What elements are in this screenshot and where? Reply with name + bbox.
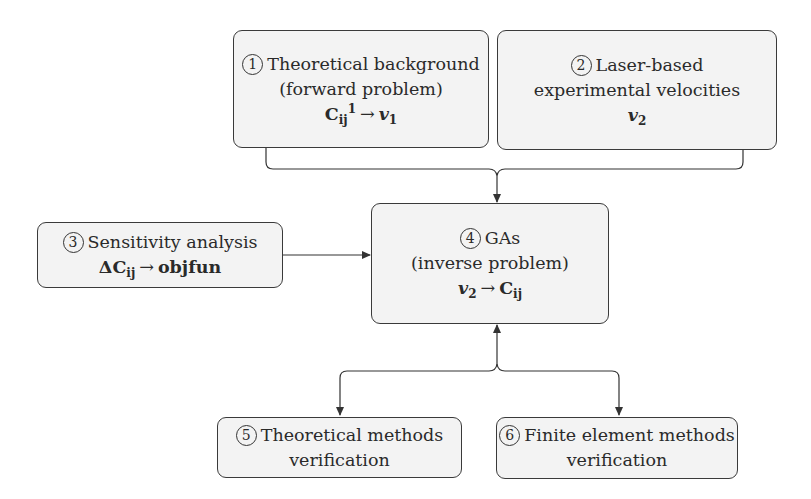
node-subtitle: verification xyxy=(567,448,668,473)
node-formula: ΔCij→objfun xyxy=(99,255,221,280)
node-formula: v2 xyxy=(628,103,647,128)
step-number-badge: 4 xyxy=(460,228,481,249)
node-subtitle: experimental velocities xyxy=(534,78,740,103)
node-title: Theoretical methods xyxy=(261,425,444,445)
node-title: Finite element methods xyxy=(524,425,735,445)
node-formula: Cij1→v1 xyxy=(325,102,397,127)
node-theoretical-background: 1Theoretical background (forward problem… xyxy=(233,30,489,148)
node-title: Theoretical background xyxy=(267,54,479,74)
node-title: GAs xyxy=(485,228,521,248)
branch-to-verification xyxy=(340,364,497,415)
node-subtitle: verification xyxy=(289,448,390,473)
node-title: Laser-based xyxy=(596,55,704,75)
node-title: Sensitivity analysis xyxy=(88,232,258,252)
node-gas-inverse-problem: 4GAs (inverse problem) v2→Cij xyxy=(371,203,609,324)
arrow-right-icon: → xyxy=(481,278,496,298)
merge-bracket xyxy=(266,148,743,176)
step-number-badge: 2 xyxy=(571,55,592,76)
node-finite-element-verification: 6Finite element methods verification xyxy=(496,417,738,479)
step-number-badge: 3 xyxy=(63,232,84,253)
step-number-badge: 5 xyxy=(236,425,257,446)
node-subtitle: (inverse problem) xyxy=(411,251,569,276)
node-sensitivity-analysis: 3Sensitivity analysis ΔCij→objfun xyxy=(37,222,283,288)
step-number-badge: 1 xyxy=(242,54,263,75)
node-formula: v2→Cij xyxy=(458,276,522,301)
step-number-badge: 6 xyxy=(499,425,520,446)
branch-to-fem xyxy=(497,364,619,415)
node-theoretical-methods-verification: 5Theoretical methods verification xyxy=(217,417,462,478)
node-laser-experimental-velocities: 2Laser-based experimental velocities v2 xyxy=(497,30,777,150)
arrow-right-icon: → xyxy=(360,104,375,124)
arrow-right-icon: → xyxy=(139,257,154,277)
node-subtitle: (forward problem) xyxy=(279,77,442,102)
